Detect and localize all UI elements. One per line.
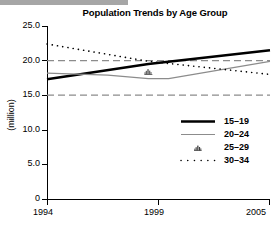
legend-key-thick-black-line: [178, 115, 218, 128]
y-tick-mark-20: [42, 60, 48, 61]
series-line-15–19: [47, 50, 270, 79]
legend-label-20-24: 20–24: [224, 129, 249, 140]
legend-label-25-29: 25–29: [224, 142, 249, 153]
plot-area: [0, 0, 279, 227]
reference-gridlines: [47, 61, 270, 96]
chart-page: Population Trends by Age Group (million)…: [0, 0, 279, 227]
y-tick-label-0: 0: [6, 194, 40, 203]
legend-key-cluster-marker-icon: [178, 141, 218, 154]
legend-item-20-24[interactable]: 20–24: [178, 128, 262, 141]
y-axis-tick-labels: 25.0 20.0 15.0 10.0 5.0 0: [4, 0, 40, 227]
y-tick-label-10: 10.0: [6, 125, 40, 134]
y-tick-mark-25: [42, 26, 48, 27]
chart-title: Population Trends by Age Group: [40, 7, 270, 18]
legend-item-15-19[interactable]: 15–19: [178, 115, 262, 128]
y-tick-label-25: 25.0: [6, 21, 40, 30]
x-tick-mark-2005: [269, 199, 270, 205]
legend-label-15-19: 15–19: [224, 116, 249, 127]
legend-item-25-29[interactable]: 25–29: [178, 141, 262, 154]
series-line-20–24: [47, 61, 270, 78]
legend-item-30-34[interactable]: 30–34: [178, 154, 262, 167]
x-tick-label-1994: 1994: [33, 207, 53, 217]
legend-key-dotted-line: [178, 154, 218, 167]
y-tick-mark-15: [42, 95, 48, 96]
legend-key-thin-gray-line: [178, 128, 218, 141]
x-tick-mark-1994: [47, 199, 48, 205]
y-tick-mark-10: [42, 130, 48, 131]
y-tick-label-15: 15.0: [6, 90, 40, 99]
y-axis-line: [47, 26, 48, 200]
y-tick-label-5: 5.0: [6, 159, 40, 168]
chart-legend: 15–19 20–24 25–29: [178, 115, 262, 167]
marker-25–29: [144, 69, 152, 75]
x-tick-mark-1999: [158, 199, 159, 205]
x-tick-label-2005: 2005: [246, 207, 266, 217]
legend-label-30-34: 30–34: [224, 155, 249, 166]
y-tick-mark-5: [42, 164, 48, 165]
series-line-30–34: [47, 44, 270, 74]
x-tick-label-1999: 1999: [144, 207, 164, 217]
data-series-group: [47, 44, 270, 79]
y-tick-label-20: 20.0: [6, 56, 40, 65]
